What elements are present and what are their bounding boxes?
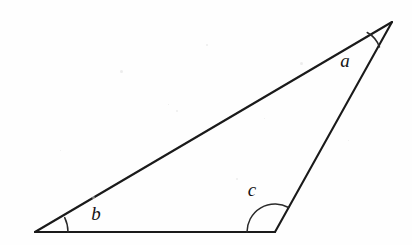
angle-arcs [65,33,380,233]
angle-labels: a b c [91,50,350,224]
edge-hypotenuse [35,22,392,232]
angle-label-c: c [248,179,257,200]
angle-label-a: a [340,50,350,71]
edge-right-leg [275,22,392,232]
geometry-figure: a b c [0,0,412,245]
triangle-diagram: a b c [0,0,412,245]
angle-label-b: b [91,203,101,224]
angle-arc-b [65,218,68,232]
triangle-edges [35,22,392,232]
